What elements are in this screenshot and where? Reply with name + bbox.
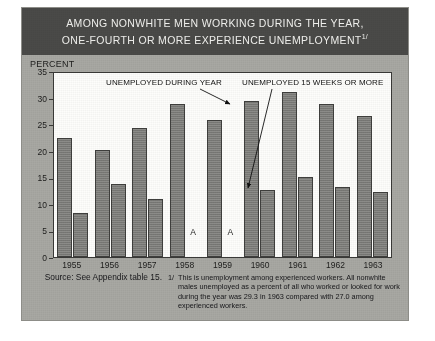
x-axis-tick: 1963 <box>356 260 391 270</box>
x-axis-tick: 1957 <box>130 260 165 270</box>
x-axis-tick: 1955 <box>55 260 90 270</box>
footnote-text: This is unemployment among experienced w… <box>178 273 402 310</box>
bar-group <box>56 73 90 257</box>
bar-unemployed-15-weeks <box>260 190 275 257</box>
not-available-marker: A <box>190 227 196 237</box>
chart-title-line-2-text: ONE-FOURTH OR MORE EXPERIENCE UNEMPLOYME… <box>62 34 362 46</box>
x-axis: 195519561957195819591960196119621963 <box>53 260 392 270</box>
chart-area: PERCENT 35302520151050 AA 19551956195719… <box>22 55 408 320</box>
footnote-marker: 1/ <box>168 273 178 310</box>
x-axis-tick: 1962 <box>318 260 353 270</box>
bar-unemployed-15-weeks <box>73 213 88 257</box>
chart-title-line-2: ONE-FOURTH OR MORE EXPERIENCE UNEMPLOYME… <box>62 30 368 47</box>
y-axis-tick: 10 <box>38 200 53 210</box>
bar-unemployed-15-weeks: A <box>186 217 201 257</box>
bar-group <box>280 73 314 257</box>
chart-title-bar: AMONG NONWHITE MEN WORKING DURING THE YE… <box>22 8 408 55</box>
y-axis-tick: 35 <box>38 67 53 77</box>
bar-group <box>243 73 277 257</box>
bar-unemployed-during-year <box>357 116 372 257</box>
title-footnote-marker: 1/ <box>362 33 369 40</box>
bar-unemployed-15-weeks <box>335 187 350 257</box>
x-axis-tick: 1956 <box>92 260 127 270</box>
y-axis-tick: 15 <box>38 173 53 183</box>
bar-group: A <box>205 73 239 257</box>
x-axis-tick: 1960 <box>243 260 278 270</box>
not-available-marker: A <box>228 227 234 237</box>
chart-title-line-1: AMONG NONWHITE MEN WORKING DURING THE YE… <box>66 16 364 30</box>
bar-unemployed-during-year <box>244 101 259 257</box>
bar-group <box>318 73 352 257</box>
footnote-block: Source: See Appendix table 15. 1/ This i… <box>30 273 402 310</box>
bar-group <box>93 73 127 257</box>
bar-unemployed-15-weeks: A <box>223 217 238 257</box>
y-axis-tick: 5 <box>42 226 53 236</box>
y-axis-tick: 0 <box>42 253 53 263</box>
source-note: Source: See Appendix table 15. <box>30 273 168 310</box>
plot-area: AA <box>53 72 392 258</box>
bar-unemployed-during-year <box>57 138 72 257</box>
y-axis: 35302520151050 <box>22 72 53 258</box>
y-axis-tick: 25 <box>38 120 53 130</box>
y-axis-tick: 30 <box>38 94 53 104</box>
figure-panel: AMONG NONWHITE MEN WORKING DURING THE YE… <box>22 8 408 320</box>
bar-group <box>130 73 164 257</box>
bar-unemployed-during-year <box>132 128 147 257</box>
y-axis-tick: 20 <box>38 147 53 157</box>
x-axis-tick: 1959 <box>205 260 240 270</box>
x-axis-tick: 1961 <box>280 260 315 270</box>
annotation-unemployed-15-weeks: UNEMPLOYED 15 WEEKS OR MORE <box>242 78 383 87</box>
x-axis-tick: 1958 <box>168 260 203 270</box>
bar-unemployed-during-year <box>170 104 185 257</box>
bar-unemployed-during-year <box>319 104 334 257</box>
bar-unemployed-15-weeks <box>298 177 313 257</box>
bar-unemployed-during-year <box>95 150 110 257</box>
bar-unemployed-15-weeks <box>148 199 163 257</box>
bar-unemployed-15-weeks <box>111 184 126 257</box>
bar-unemployed-during-year <box>207 120 222 257</box>
bar-unemployed-during-year <box>282 92 297 257</box>
bar-group: A <box>168 73 202 257</box>
annotation-unemployed-during-year: UNEMPLOYED DURING YEAR <box>106 78 222 87</box>
bar-group <box>355 73 389 257</box>
bar-unemployed-15-weeks <box>373 192 388 257</box>
bars-layer: AA <box>54 73 391 257</box>
